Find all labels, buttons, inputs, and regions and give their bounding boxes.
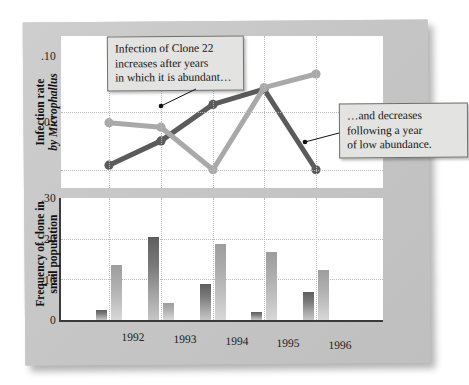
callout-leader-lines (0, 0, 469, 385)
leader-line-2 (305, 133, 339, 142)
leader-endpoint-1 (159, 104, 164, 109)
leader-line-1 (161, 89, 196, 106)
figure-container: .10 .05 Infection rate by Microphallus .… (0, 0, 469, 385)
leader-endpoint-2 (303, 140, 308, 145)
